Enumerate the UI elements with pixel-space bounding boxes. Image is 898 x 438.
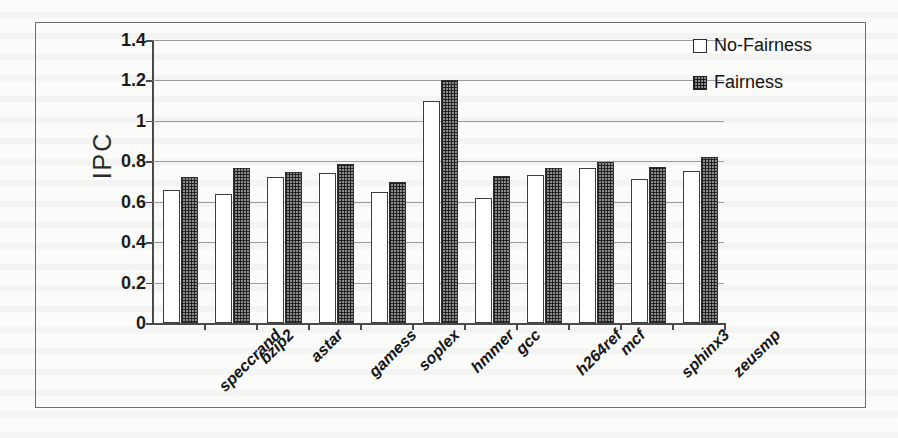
- bar-group: [371, 40, 406, 323]
- bar-fairness-soplex[interactable]: [389, 182, 406, 324]
- bar-fairness-h264ref[interactable]: [545, 168, 562, 323]
- bar-group: [423, 40, 458, 323]
- x-axis-label-gamess: gamess: [365, 326, 420, 381]
- bar-group: [475, 40, 510, 323]
- y-axis-tick-label: 1: [102, 110, 146, 131]
- bar-fairness-sphinx3[interactable]: [649, 167, 666, 323]
- bar-fairness-bzip2[interactable]: [233, 168, 250, 323]
- bar-no-fairness-soplex[interactable]: [371, 192, 388, 323]
- x-axis-tick-labels: speccrandbzip2astargamesssoplexhmmergcch…: [152, 326, 772, 416]
- y-axis-tick-label: 0.2: [102, 272, 146, 293]
- legend-item-fairness[interactable]: Fairness: [693, 72, 861, 93]
- bar-no-fairness-gamess[interactable]: [319, 173, 336, 323]
- x-axis-label-h264ref: h264ref: [573, 326, 626, 379]
- bar-no-fairness-sphinx3[interactable]: [631, 179, 648, 323]
- bar-group: [579, 40, 614, 323]
- bar-no-fairness-hmmer[interactable]: [423, 101, 440, 323]
- bar-fairness-zeusmp[interactable]: [701, 157, 718, 323]
- bar-no-fairness-speccrand[interactable]: [163, 190, 180, 323]
- checkered-square-icon: [693, 76, 707, 90]
- bar-group: [319, 40, 354, 323]
- x-axis-label-gcc: gcc: [512, 326, 544, 358]
- y-axis-tick-labels: 00.20.40.60.811.21.4: [94, 23, 146, 409]
- bar-no-fairness-gcc[interactable]: [475, 198, 492, 323]
- chart-legend: No-Fairness Fairness: [693, 35, 861, 109]
- x-axis-label-astar: astar: [307, 326, 347, 366]
- legend-label-no-fairness: No-Fairness: [714, 35, 812, 56]
- bar-group: [215, 40, 250, 323]
- x-axis-label-bzip2: bzip2: [256, 326, 298, 368]
- legend-label-fairness: Fairness: [714, 72, 783, 93]
- chart-figure-frame: IPC 00.20.40.60.811.21.4 speccrandbzip2a…: [35, 22, 866, 408]
- x-axis-label-soplex: soplex: [415, 326, 464, 375]
- bar-no-fairness-h264ref[interactable]: [527, 175, 544, 323]
- y-axis-tickmark: [146, 323, 153, 325]
- bar-group: [267, 40, 302, 323]
- bar-fairness-hmmer[interactable]: [441, 80, 458, 323]
- y-axis-tick-label: 0: [102, 313, 146, 334]
- bar-series-container: [152, 23, 724, 323]
- x-axis-label-hmmer: hmmer: [468, 326, 518, 376]
- bar-group: [631, 40, 666, 323]
- x-axis-baseline: [152, 323, 724, 325]
- bar-fairness-speccrand[interactable]: [181, 177, 198, 323]
- bar-no-fairness-bzip2[interactable]: [215, 194, 232, 323]
- plot-area: IPC 00.20.40.60.811.21.4 speccrandbzip2a…: [36, 23, 867, 409]
- x-axis-label-sphinx3: sphinx3: [678, 326, 733, 381]
- y-axis-tick-label: 0.6: [102, 191, 146, 212]
- empty-square-icon: [693, 39, 707, 53]
- y-axis-tick-label: 0.4: [102, 232, 146, 253]
- x-axis-label-mcf: mcf: [616, 326, 649, 359]
- bar-fairness-mcf[interactable]: [597, 162, 614, 323]
- bar-fairness-gcc[interactable]: [493, 176, 510, 323]
- y-axis-tick-label: 1.2: [102, 70, 146, 91]
- y-axis-tick-label: 1.4: [102, 30, 146, 51]
- bar-group: [527, 40, 562, 323]
- bar-group: [163, 40, 198, 323]
- bar-no-fairness-zeusmp[interactable]: [683, 171, 700, 323]
- bar-no-fairness-astar[interactable]: [267, 177, 284, 323]
- y-axis-tick-label: 0.8: [102, 151, 146, 172]
- x-axis-label-zeusmp: zeusmp: [729, 326, 784, 381]
- bar-fairness-astar[interactable]: [285, 172, 302, 323]
- bar-no-fairness-mcf[interactable]: [579, 168, 596, 323]
- bar-fairness-gamess[interactable]: [337, 164, 354, 323]
- legend-item-no-fairness[interactable]: No-Fairness: [693, 35, 861, 56]
